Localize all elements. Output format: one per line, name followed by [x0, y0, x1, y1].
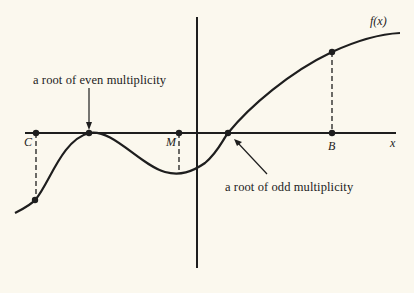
point-label-m: M [166, 136, 176, 148]
point-c-axis [33, 130, 39, 136]
point-b-axis [329, 130, 335, 136]
odd-root-arrowhead-icon [234, 139, 242, 146]
point-label-c: C [24, 136, 32, 148]
x-axis-label: x [390, 137, 395, 149]
point-b-curve [329, 49, 335, 55]
function-roots-diagram: f(x) x C M B a root of even multiplicity… [0, 0, 414, 293]
point-even-root [86, 130, 92, 136]
point-odd-root [225, 130, 231, 136]
even-root-arrowhead-icon [86, 122, 92, 130]
point-m-axis [176, 130, 182, 136]
curve-label: f(x) [370, 15, 387, 27]
even-root-annotation: a root of even multiplicity [33, 74, 166, 87]
odd-root-annotation: a root of odd multiplicity [225, 181, 353, 194]
point-label-b: B [328, 140, 335, 152]
odd-root-arrow-shaft [238, 143, 267, 174]
point-c-curve [32, 197, 38, 203]
